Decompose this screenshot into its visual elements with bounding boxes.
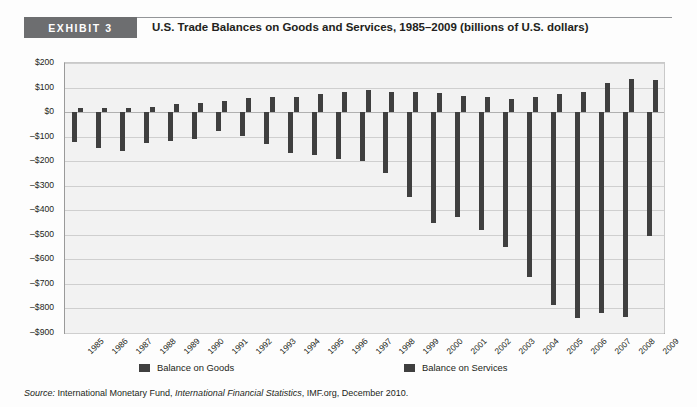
- bar-series: [65, 63, 664, 333]
- legend-swatch-services: [404, 364, 415, 372]
- bar-services: [437, 93, 442, 112]
- y-axis-tick-label: –$600: [30, 253, 54, 263]
- x-axis-tick-label: 1985: [85, 336, 105, 356]
- x-axis-tick-label: 1991: [229, 336, 249, 356]
- bar-services: [389, 92, 394, 112]
- bar-goods: [96, 112, 101, 148]
- bar-services: [102, 108, 107, 112]
- y-axis-tick-label: –$400: [30, 204, 54, 214]
- source-label: Source:: [24, 388, 55, 398]
- bar-goods: [216, 112, 221, 131]
- bar-goods: [192, 112, 197, 139]
- bar-group: [161, 63, 185, 333]
- bar-services: [198, 103, 203, 113]
- bar-services: [126, 108, 131, 112]
- bar-group: [257, 63, 281, 333]
- bar-services: [222, 101, 227, 112]
- bar-services: [461, 96, 466, 112]
- exhibit-badge: EXHIBIT 3: [24, 17, 137, 38]
- y-axis-tick-label: –$200: [30, 155, 54, 165]
- bar-services: [653, 80, 658, 112]
- source-part1: International Monetary Fund,: [55, 388, 175, 398]
- bar-services: [78, 108, 83, 112]
- x-axis-tick-label: 2000: [445, 336, 465, 356]
- y-axis-tick-label: –$700: [30, 278, 54, 288]
- x-axis-tick-label: 2004: [541, 336, 561, 356]
- x-axis-tick-label: 1999: [421, 336, 441, 356]
- bar-goods: [240, 112, 245, 136]
- bar-services: [294, 97, 299, 112]
- bar-goods: [360, 112, 365, 161]
- exhibit-header: EXHIBIT 3 U.S. Trade Balances on Goods a…: [24, 17, 672, 41]
- bar-goods: [503, 112, 508, 247]
- x-axis-tick-label: 1997: [373, 336, 393, 356]
- bar-goods: [336, 112, 341, 159]
- x-axis-tick-label: 1998: [397, 336, 417, 356]
- legend-swatch-goods: [139, 364, 150, 372]
- bar-goods: [527, 112, 532, 276]
- bar-group: [329, 63, 353, 333]
- bar-services: [342, 92, 347, 112]
- bar-goods: [288, 112, 293, 153]
- bar-group: [496, 63, 520, 333]
- x-axis-tick-label: 2003: [517, 336, 537, 356]
- x-axis-tick-label: 1995: [325, 336, 345, 356]
- y-axis-tick-label: –$900: [30, 327, 54, 337]
- bar-goods: [599, 112, 604, 313]
- legend-item-goods: Balance on Goods: [139, 362, 234, 373]
- bar-goods: [312, 112, 317, 155]
- bar-group: [65, 63, 89, 333]
- bar-services: [581, 92, 586, 112]
- legend-label-goods: Balance on Goods: [157, 362, 234, 373]
- bar-goods: [72, 112, 77, 142]
- bar-goods: [479, 112, 484, 230]
- y-axis-labels: $200$100$0–$100–$200–$300–$400–$500–$600…: [0, 62, 60, 332]
- bar-group: [400, 63, 424, 333]
- bar-group: [520, 63, 544, 333]
- y-axis-tick-label: –$800: [30, 302, 54, 312]
- bar-group: [137, 63, 161, 333]
- bar-goods: [431, 112, 436, 223]
- bar-group: [376, 63, 400, 333]
- bar-services: [485, 97, 490, 112]
- bar-goods: [383, 112, 388, 173]
- y-axis-tick-label: –$300: [30, 180, 54, 190]
- bar-group: [305, 63, 329, 333]
- x-axis-tick-label: 1987: [133, 336, 153, 356]
- bar-services: [605, 83, 610, 112]
- x-axis-tick-label: 1986: [109, 336, 129, 356]
- x-axis-tick-label: 2001: [469, 336, 489, 356]
- source-part2: , IMF.org, December 2010.: [302, 388, 409, 398]
- bar-goods: [455, 112, 460, 217]
- bar-group: [640, 63, 664, 333]
- x-axis-tick-label: 2008: [637, 336, 657, 356]
- bar-goods: [264, 112, 269, 144]
- legend-label-services: Balance on Services: [422, 362, 507, 373]
- source-publication: International Financial Statistics: [175, 388, 302, 398]
- bar-group: [568, 63, 592, 333]
- bar-goods: [120, 112, 125, 151]
- bar-services: [270, 97, 275, 112]
- x-axis-tick-label: 2002: [493, 336, 513, 356]
- bar-services: [509, 99, 514, 112]
- bar-services: [629, 79, 634, 112]
- bar-group: [209, 63, 233, 333]
- bar-goods: [575, 112, 580, 318]
- x-axis-tick-label: 1992: [253, 336, 273, 356]
- exhibit-sheet: EXHIBIT 3 U.S. Trade Balances on Goods a…: [0, 0, 697, 407]
- bar-goods: [168, 112, 173, 141]
- bar-goods: [623, 112, 628, 317]
- x-axis-tick-label: 1996: [349, 336, 369, 356]
- x-axis-tick-label: 1990: [205, 336, 225, 356]
- bar-goods: [144, 112, 149, 143]
- y-axis-tick-label: $200: [35, 57, 54, 67]
- x-axis-tick-label: 2005: [565, 336, 585, 356]
- x-axis-tick-label: 1993: [277, 336, 297, 356]
- bar-group: [544, 63, 568, 333]
- bar-services: [246, 98, 251, 112]
- bar-group: [592, 63, 616, 333]
- legend-item-services: Balance on Services: [404, 362, 507, 373]
- bar-group: [185, 63, 209, 333]
- chart-area: $200$100$0–$100–$200–$300–$400–$500–$600…: [0, 50, 697, 350]
- bar-goods: [647, 112, 652, 236]
